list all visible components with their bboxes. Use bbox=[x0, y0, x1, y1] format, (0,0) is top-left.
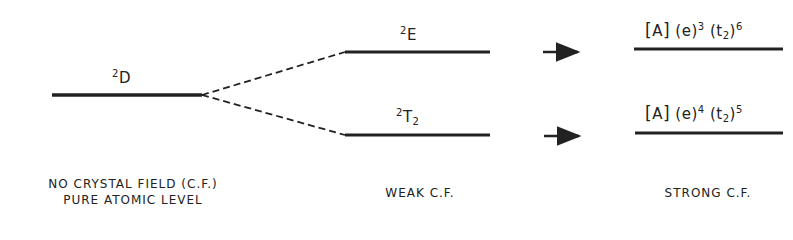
e-count: 4 bbox=[698, 104, 705, 115]
e-count: 3 bbox=[698, 21, 705, 32]
t-count: 5 bbox=[736, 104, 743, 115]
no-field-caption-line1: NO CRYSTAL FIELD (C.F.) bbox=[18, 176, 248, 192]
e-orbital: e bbox=[682, 22, 692, 40]
core-config: A bbox=[652, 22, 663, 40]
split-dashed-line-lower bbox=[202, 95, 345, 135]
core-config: A bbox=[652, 105, 663, 123]
strong-field-caption: STRONG C.F. bbox=[638, 185, 778, 201]
e-orbital: e bbox=[682, 105, 692, 123]
no-field-caption-line2: PURE ATOMIC LEVEL bbox=[18, 192, 248, 208]
term-symbol: T bbox=[403, 108, 413, 126]
subscript: 2 bbox=[413, 116, 420, 127]
weak-field-caption-text: WEAK C.F. bbox=[385, 186, 454, 200]
multiplicity: 2 bbox=[112, 68, 119, 79]
split-dashed-line-upper bbox=[202, 52, 345, 95]
t-subscript: 2 bbox=[723, 30, 730, 41]
t-subscript: 2 bbox=[723, 113, 730, 124]
term-symbol: D bbox=[119, 69, 131, 87]
multiplicity: 2 bbox=[400, 25, 407, 36]
weak-lower-term-label: 2T2 bbox=[396, 107, 419, 127]
strong-upper-configuration-label: [A] (e)3 (t2)6 bbox=[645, 20, 743, 41]
term-symbol: E bbox=[407, 26, 417, 44]
no-field-caption: NO CRYSTAL FIELD (C.F.) PURE ATOMIC LEVE… bbox=[18, 176, 248, 208]
strong-field-caption-text: STRONG C.F. bbox=[665, 186, 752, 200]
weak-upper-term-label: 2E bbox=[400, 25, 417, 44]
t-count: 6 bbox=[736, 21, 743, 32]
free-ion-term-label: 2D bbox=[112, 68, 131, 87]
strong-lower-configuration-label: [A] (e)4 (t2)5 bbox=[645, 103, 743, 124]
weak-field-caption: WEAK C.F. bbox=[365, 185, 475, 201]
multiplicity: 2 bbox=[396, 107, 403, 118]
